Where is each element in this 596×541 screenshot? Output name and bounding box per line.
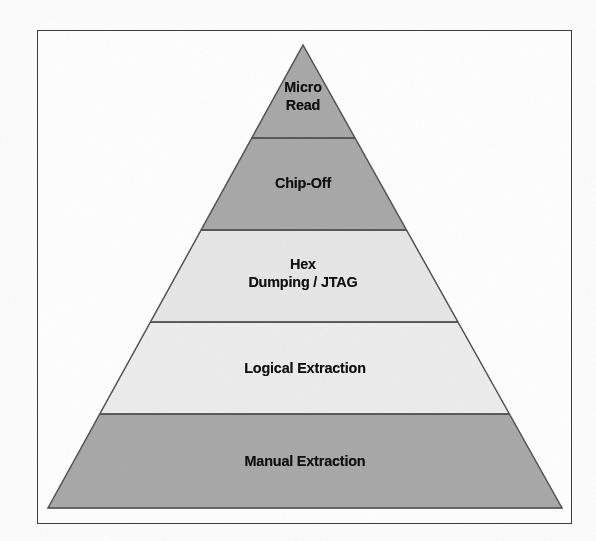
pyramid-band-chip-off[interactable] bbox=[201, 138, 406, 230]
pyramid-band-manual-extraction[interactable] bbox=[48, 414, 562, 508]
pyramid-band-hex-dumping[interactable] bbox=[150, 230, 458, 322]
figure-root: Micro Read Chip-Off Hex Dumping / JTAG L… bbox=[0, 0, 596, 541]
pyramid-band-micro-read[interactable] bbox=[252, 45, 355, 138]
pyramid-diagram bbox=[0, 0, 596, 541]
pyramid-band-logical-extraction[interactable] bbox=[100, 322, 510, 414]
